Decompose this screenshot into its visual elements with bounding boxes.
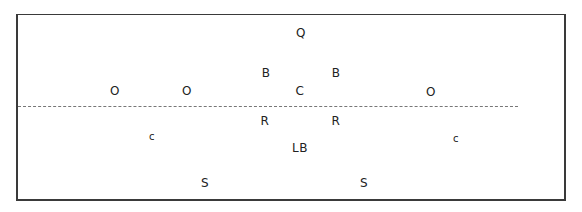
player-offense-1: O	[110, 85, 120, 97]
player-offense-3: O	[426, 86, 436, 98]
player-linebacker: LB	[292, 142, 308, 154]
line-of-scrimmage	[18, 106, 518, 107]
field-border	[16, 14, 566, 201]
player-offense-2: O	[182, 85, 192, 97]
player-corner-left: c	[149, 131, 155, 143]
player-center: C	[296, 85, 305, 97]
player-safety-left: S	[201, 177, 209, 189]
player-rusher-right: R	[332, 115, 341, 127]
player-safety-right: S	[360, 177, 368, 189]
player-back-right: B	[332, 67, 341, 79]
player-quarterback: Q	[296, 27, 306, 39]
player-corner-right: c	[453, 133, 459, 145]
player-rusher-left: R	[261, 115, 270, 127]
player-back-left: B	[262, 67, 271, 79]
